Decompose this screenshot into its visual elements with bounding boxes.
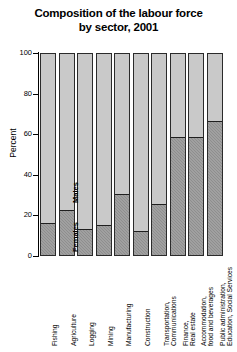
y-axis-tick-label: 60 — [2, 130, 32, 138]
bar-segment-males — [78, 54, 92, 231]
x-axis-label-line-1: Finance, — [182, 320, 189, 346]
y-axis-tick — [33, 215, 38, 216]
bar-segment-females — [208, 121, 222, 255]
x-axis-label-line-2: Real estate — [189, 312, 196, 346]
bar-public-administration-education-social-services[interactable] — [207, 53, 223, 256]
chart-container: Composition of the labour force by secto… — [0, 0, 237, 352]
chart-title: Composition of the labour force by secto… — [8, 6, 229, 34]
bar-segment-females — [189, 137, 203, 255]
bar-segment-females — [134, 231, 148, 255]
y-axis-tick — [33, 256, 38, 257]
x-axis-label-line-1: Accommodation, — [200, 296, 207, 346]
series-label-females: Females — [71, 222, 80, 252]
x-axis-label-line-1: Manufacturing — [125, 304, 132, 346]
y-axis-tick-label: 100 — [2, 49, 32, 57]
bar-segment-males — [171, 54, 185, 139]
series-label-males: Males — [71, 182, 80, 203]
bar-segment-females — [115, 194, 129, 255]
x-axis-label-line-2: food and beverages — [207, 287, 214, 346]
x-axis-category-label: Logging — [88, 322, 95, 346]
bar-manufacturing[interactable] — [114, 53, 130, 256]
bar-segment-females — [78, 229, 92, 255]
x-axis-label-line-2: Education, Social Services — [226, 267, 233, 346]
bar-segment-males — [189, 54, 203, 139]
y-axis-tick — [33, 94, 38, 95]
bar-accommodation-food-and-beverages[interactable] — [188, 53, 204, 256]
bar-fishing[interactable] — [40, 53, 56, 256]
x-axis-category-label: Fishing — [51, 324, 58, 346]
bar-segment-females — [41, 223, 55, 255]
bar-segment-females — [171, 137, 185, 255]
bar-construction[interactable] — [133, 53, 149, 256]
bar-segment-males — [134, 54, 148, 233]
x-axis-category-label: Accommodation,food and beverages — [200, 287, 215, 346]
bar-segment-males — [97, 54, 111, 227]
x-axis-category-label: Mining — [107, 326, 114, 346]
x-axis-category-label: Public administration,Education, Social … — [219, 267, 234, 346]
y-axis-tick-label: 80 — [2, 90, 32, 98]
bar-finance-real-estate[interactable] — [170, 53, 186, 256]
x-axis-category-labels: FishingAgricultureLoggingMiningManufactu… — [0, 258, 237, 352]
y-axis-tick-label: 20 — [2, 211, 32, 219]
plot-area: FemalesMales — [39, 53, 224, 256]
bar-segment-males — [41, 54, 55, 225]
y-axis-tick — [33, 134, 38, 135]
x-axis-category-label: Construction — [144, 308, 151, 346]
x-axis-label-line-1: Logging — [88, 322, 95, 346]
x-axis-label-line-1: Transportation, — [163, 301, 170, 346]
bar-segment-males — [208, 54, 222, 123]
x-axis-label-line-1: Public administration, — [219, 282, 226, 346]
y-axis-tick-label: 40 — [2, 171, 32, 179]
bar-segment-males — [152, 54, 166, 206]
y-axis-tick — [33, 53, 38, 54]
bar-segment-females — [97, 225, 111, 255]
chart-title-line-1: Composition of the labour force — [8, 6, 229, 20]
bar-transportation-communications[interactable] — [151, 53, 167, 256]
x-axis-label-line-1: Agriculture — [70, 314, 77, 346]
chart-title-line-2: by sector, 2001 — [8, 20, 229, 34]
x-axis-category-label: Agriculture — [70, 314, 77, 346]
x-axis-category-label: Transportation,Communications — [163, 296, 178, 346]
x-axis-label-line-1: Construction — [144, 308, 151, 346]
x-axis-category-label: Finance,Real estate — [182, 312, 197, 346]
bar-segment-females — [152, 204, 166, 255]
x-axis-label-line-1: Mining — [107, 326, 114, 346]
x-axis-label-line-2: Communications — [170, 296, 177, 346]
bar-segment-males — [115, 54, 129, 196]
y-axis-tick — [33, 175, 38, 176]
x-axis-category-label: Manufacturing — [125, 304, 132, 346]
x-axis-label-line-1: Fishing — [51, 324, 58, 346]
bar-mining[interactable] — [96, 53, 112, 256]
